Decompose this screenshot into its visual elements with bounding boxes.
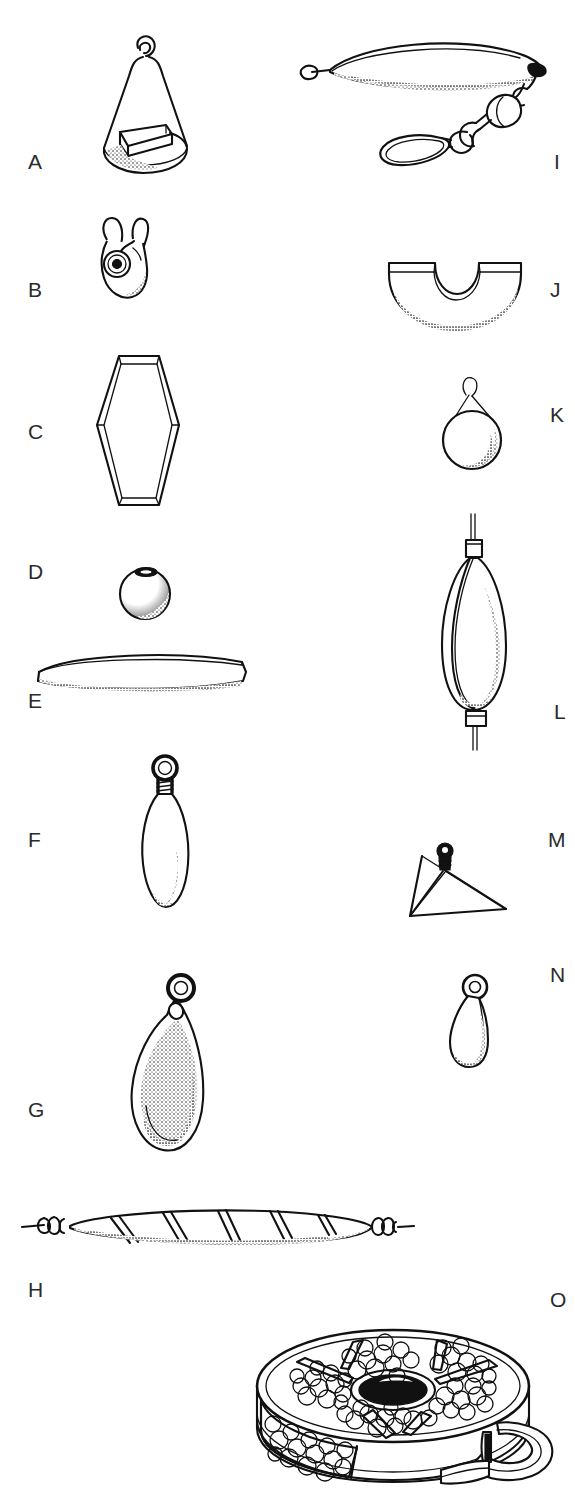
figure-i-keel-sinker xyxy=(300,28,550,173)
figure-label-n: N xyxy=(550,964,566,985)
figure-k-ball-on-loop xyxy=(430,372,520,482)
egg-sinker-drawing xyxy=(420,512,530,752)
figure-label-o: O xyxy=(550,1289,567,1310)
figure-o-shot-dispenser xyxy=(245,1320,565,1490)
torpedo-sinker-drawing xyxy=(128,752,208,917)
flat-lens-sinker-drawing xyxy=(30,648,255,704)
figure-label-l: L xyxy=(554,701,566,722)
figure-label-h: H xyxy=(28,1279,44,1300)
figure-l-egg-sinker xyxy=(420,512,530,752)
figure-label-d: D xyxy=(28,561,44,582)
ball-on-loop-drawing xyxy=(430,372,520,482)
figure-e-flat-lens-sinker xyxy=(30,648,255,704)
figure-label-i: I xyxy=(554,151,560,172)
keel-sinker-drawing xyxy=(300,28,550,173)
figure-g-bank-sinker xyxy=(105,965,225,1170)
figure-label-m: M xyxy=(548,829,566,850)
figure-f-torpedo-sinker xyxy=(128,752,208,917)
figure-label-f: F xyxy=(28,829,41,850)
twist-on-sinker-drawing xyxy=(18,1192,418,1262)
shot-dispenser-drawing xyxy=(245,1320,565,1490)
figure-n-dipsey-sinker xyxy=(440,970,510,1075)
figure-label-a: A xyxy=(28,151,43,172)
figure-label-c: C xyxy=(28,421,44,442)
half-moon-sinker-drawing xyxy=(383,254,528,334)
bank-sinker-drawing xyxy=(105,965,225,1170)
hexagonal-sinker-drawing xyxy=(88,348,188,513)
ball-sinker-drawing xyxy=(112,559,182,629)
figure-label-b: B xyxy=(28,279,43,300)
figure-label-e: E xyxy=(28,690,43,711)
cone-sinker-drawing xyxy=(88,26,208,186)
figure-b-split-shot xyxy=(88,212,168,312)
figure-j-half-moon-sinker xyxy=(383,254,528,334)
illustration-plate: A B C xyxy=(0,0,575,1490)
figure-label-k: K xyxy=(550,404,565,425)
figure-label-g: G xyxy=(28,1099,45,1120)
dipsey-sinker-drawing xyxy=(440,970,510,1075)
split-shot-drawing xyxy=(88,212,168,312)
figure-label-j: J xyxy=(550,279,561,300)
figure-c-hexagonal-sinker xyxy=(88,348,188,513)
figure-d-ball-sinker xyxy=(112,559,182,629)
figure-h-twist-on-sinker xyxy=(18,1192,418,1262)
figure-m-pyramid-sinker xyxy=(405,838,525,933)
figure-a-cone-sinker xyxy=(88,26,208,186)
pyramid-sinker-drawing xyxy=(405,838,525,933)
